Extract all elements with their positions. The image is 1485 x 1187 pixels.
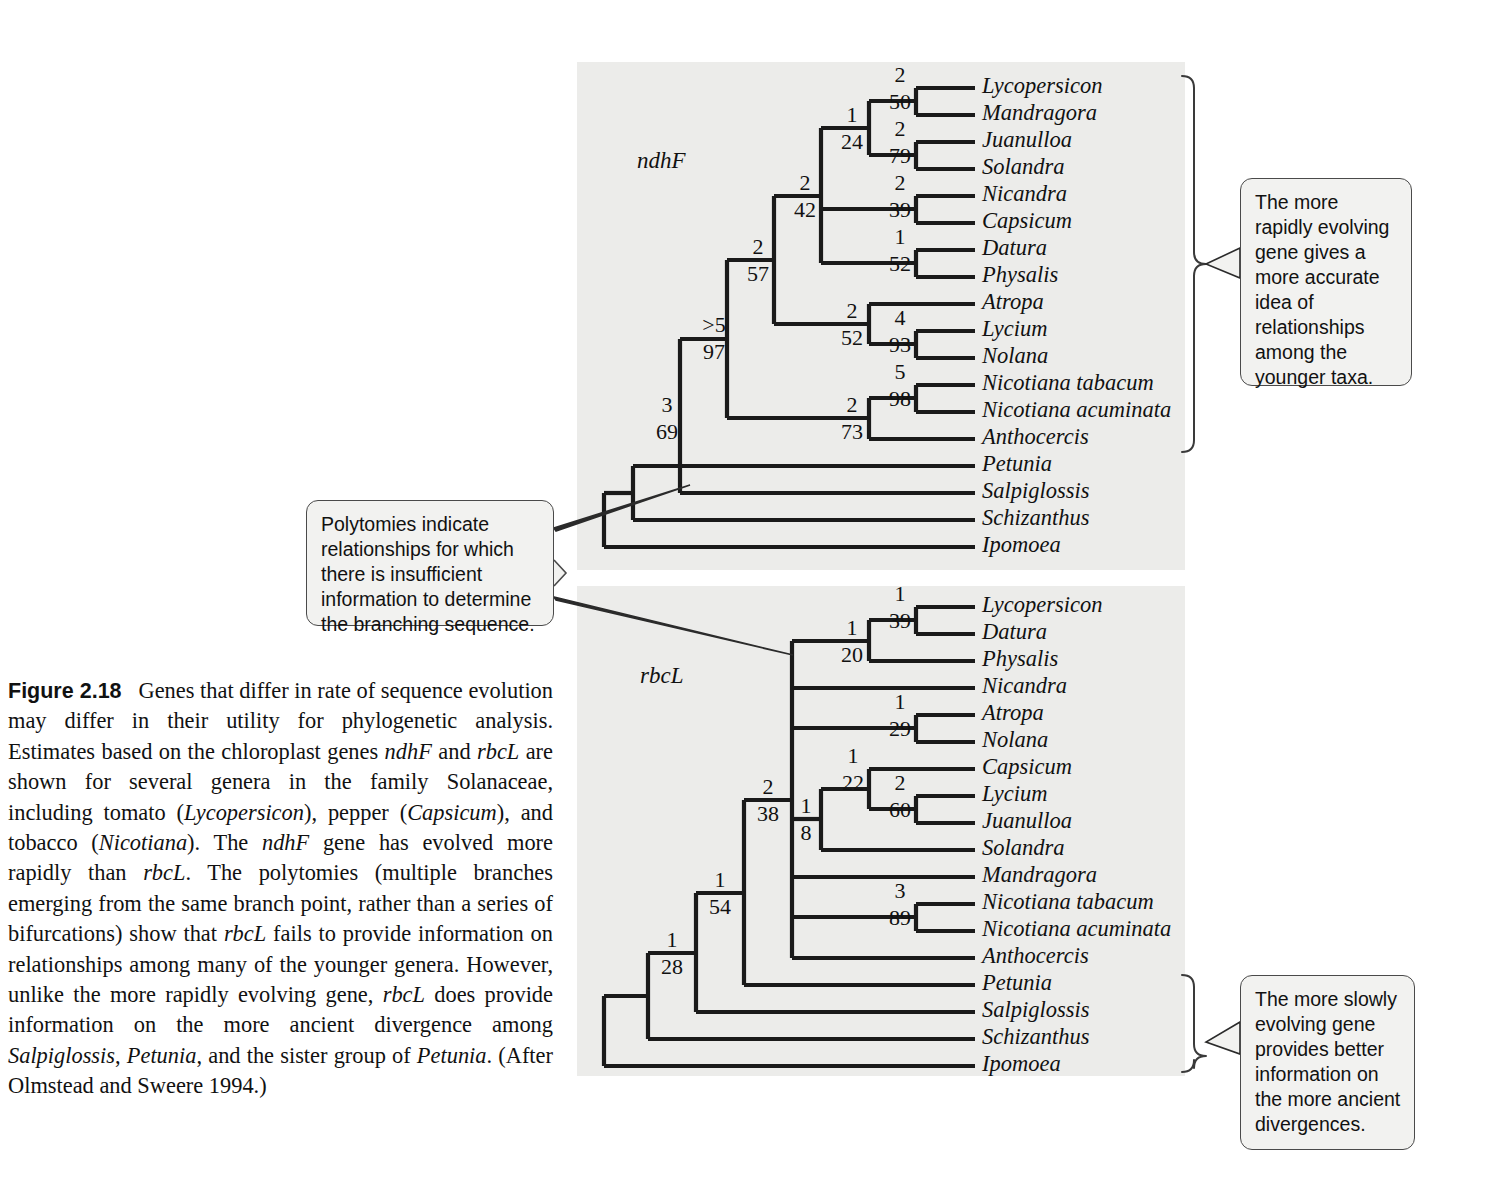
gene-label-rbcl: rbcL	[640, 663, 683, 689]
gene-label-ndhf: ndhF	[637, 148, 686, 174]
caption-italic: rbcL	[477, 739, 519, 764]
caption-italic: rbcL	[224, 921, 266, 946]
caption-seg: ). The	[187, 830, 262, 855]
figure-label: Figure 2.18	[8, 679, 122, 703]
caption-italic: Capsicum	[407, 800, 497, 825]
callout-rapidly-evolving-gene: The more rapidly evolving gene gives a m…	[1240, 178, 1412, 386]
caption-italic: Lycopersicon	[184, 800, 304, 825]
caption-italic: ndhF	[385, 739, 432, 764]
caption-italic: Nicotiana	[99, 830, 187, 855]
caption-italic: Petunia	[417, 1043, 487, 1068]
caption-italic: Petunia	[127, 1043, 197, 1068]
brace-ndhf-younger-taxa	[1182, 76, 1206, 452]
caption-seg: , and the sister group of	[196, 1043, 416, 1068]
caption-italic: rbcL	[143, 860, 185, 885]
brace-rbcl-ancient-taxa	[1182, 975, 1206, 1072]
figure-caption: Figure 2.18 Genes that differ in rate of…	[8, 676, 553, 1102]
rbcl-tree-panel	[577, 586, 1185, 1076]
callout-polytomies: Polytomies indicate relationships for wh…	[306, 500, 554, 626]
caption-italic: rbcL	[383, 982, 425, 1007]
caption-seg: ), pepper (	[304, 800, 407, 825]
ndhf-tree-panel	[577, 62, 1185, 570]
caption-italic: Salpiglossis	[8, 1043, 115, 1068]
caption-seg: ,	[115, 1043, 127, 1068]
caption-seg: and	[432, 739, 477, 764]
caption-italic: ndhF	[262, 830, 309, 855]
callout-slowly-evolving-gene: The more slowly evolving gene provides b…	[1240, 975, 1415, 1150]
figure-root: ndhF	[0, 0, 1485, 1187]
